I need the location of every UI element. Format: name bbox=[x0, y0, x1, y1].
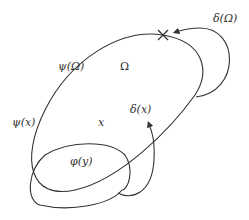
label-phi-y: φ(y) bbox=[70, 155, 93, 168]
label-delta-omega: δ(Ω) bbox=[213, 12, 237, 25]
label-psi-omega: ψ(Ω) bbox=[58, 60, 84, 73]
diagram-canvas: δ(Ω) ψ(Ω) Ω ψ(x) x δ(x) φ(y) bbox=[0, 0, 249, 220]
label-x: x bbox=[98, 116, 105, 129]
delta-x-arrow bbox=[118, 124, 154, 196]
label-psi-x: ψ(x) bbox=[12, 116, 35, 129]
label-delta-x: δ(x) bbox=[130, 103, 151, 116]
omega-boundary bbox=[32, 34, 203, 192]
x-boundary bbox=[30, 144, 130, 208]
delta-omega-arrow bbox=[176, 28, 230, 97]
label-omega: Ω bbox=[120, 60, 129, 73]
